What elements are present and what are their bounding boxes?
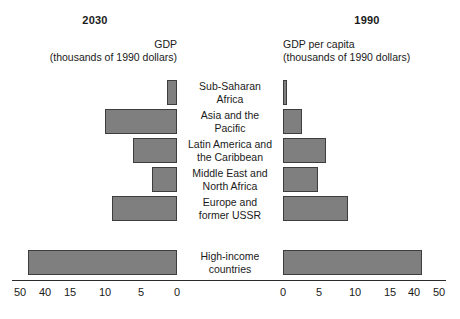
- category-label-2: Latin America and the Caribbean: [180, 138, 280, 163]
- tick-label-left-0: 0: [165, 286, 189, 298]
- tick-label-right-15: 15: [378, 286, 402, 298]
- category-label-4: Europe and former USSR: [180, 196, 280, 221]
- tick-label-right-50: 50: [427, 286, 451, 298]
- category-label-3: Middle East and North Africa: [180, 167, 280, 192]
- tick-label-right-40: 40: [402, 286, 426, 298]
- bar-gdp-per-capita-0: [283, 80, 287, 105]
- chart-root: 2030 1990 GDP (thousands of 1990 dollars…: [0, 0, 460, 319]
- bar-gdp-per-capita-5: [283, 250, 422, 275]
- plot-area: Sub-Saharan AfricaAsia and the PacificLa…: [0, 0, 460, 319]
- tick-label-left-10: 10: [93, 286, 117, 298]
- bar-gdp-2: [133, 138, 177, 163]
- category-label-1: Asia and the Pacific: [180, 109, 280, 134]
- tick-label-right-5: 5: [307, 286, 331, 298]
- bar-gdp-0: [167, 80, 177, 105]
- tick-label-right-10: 10: [343, 286, 367, 298]
- bar-gdp-5: [28, 250, 177, 275]
- tick-label-left-15: 15: [58, 286, 82, 298]
- axis-baseline: [12, 280, 446, 281]
- bar-gdp-per-capita-1: [283, 109, 302, 134]
- tick-label-left-5: 5: [129, 286, 153, 298]
- bar-gdp-4: [112, 196, 177, 221]
- bar-gdp-1: [105, 109, 177, 134]
- tick-label-left-50: 50: [8, 286, 32, 298]
- category-label-0: Sub-Saharan Africa: [180, 80, 280, 105]
- bar-gdp-per-capita-2: [283, 138, 326, 163]
- bar-gdp-per-capita-3: [283, 167, 318, 192]
- tick-label-left-40: 40: [33, 286, 57, 298]
- bar-gdp-per-capita-4: [283, 196, 348, 221]
- bar-gdp-3: [152, 167, 177, 192]
- tick-label-right-0: 0: [271, 286, 295, 298]
- category-label-5: High-income countries: [180, 250, 280, 275]
